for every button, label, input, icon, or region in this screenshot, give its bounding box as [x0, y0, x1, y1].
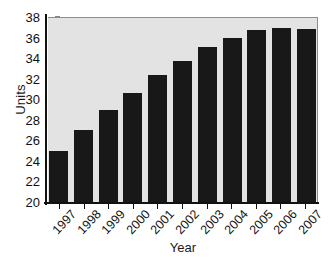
bar — [272, 28, 291, 202]
bar — [223, 38, 242, 202]
bar — [123, 93, 142, 202]
y-axis-tick-labels: 20222426283032343638 — [14, 17, 40, 202]
x-axis-title: Year — [48, 240, 318, 255]
x-tick: 2004 — [220, 204, 244, 244]
bar — [173, 61, 192, 202]
bar — [198, 47, 217, 202]
x-tick-mark — [157, 204, 158, 209]
x-tick: 2003 — [196, 204, 220, 244]
x-axis-tick-labels: 1997199819992000200120022003200420052006… — [48, 204, 318, 244]
y-tick-label: 38 — [26, 11, 40, 24]
y-tick-label: 34 — [26, 52, 40, 65]
x-tick: 2006 — [269, 204, 293, 244]
x-tick-mark — [207, 204, 208, 209]
bar — [49, 151, 68, 202]
bar-chart: Units 20222426283032343638 1997199819992… — [0, 0, 332, 261]
y-tick-label: 22 — [26, 175, 40, 188]
x-tick-mark — [182, 204, 183, 209]
x-tick-mark — [108, 204, 109, 209]
x-tick-mark — [133, 204, 134, 209]
x-tick: 1999 — [97, 204, 121, 244]
bar — [247, 30, 266, 202]
y-tick-label: 20 — [26, 196, 40, 209]
x-tick-mark — [84, 204, 85, 209]
y-tick-label: 36 — [26, 31, 40, 44]
x-tick-label: 2007 — [289, 200, 331, 244]
x-tick: 1998 — [73, 204, 97, 244]
x-tick: 2000 — [122, 204, 146, 244]
x-tick: 1997 — [48, 204, 72, 244]
bar — [74, 130, 93, 202]
x-tick-mark — [59, 204, 60, 209]
x-tick: 2002 — [171, 204, 195, 244]
y-axis-line — [45, 14, 47, 205]
x-tick-mark — [280, 204, 281, 209]
y-tick-label: 26 — [26, 134, 40, 147]
y-tick-label: 30 — [26, 93, 40, 106]
x-tick-mark — [231, 204, 232, 209]
x-tick-mark — [256, 204, 257, 209]
y-tick-label: 28 — [26, 113, 40, 126]
bar — [99, 110, 118, 203]
y-tick-label: 32 — [26, 72, 40, 85]
bar — [297, 29, 316, 202]
y-tick-label: 24 — [26, 154, 40, 167]
x-tick: 2001 — [146, 204, 170, 244]
x-tick: 2007 — [294, 204, 318, 244]
bar-series — [48, 18, 317, 202]
plot-area — [48, 17, 318, 202]
x-tick: 2005 — [245, 204, 269, 244]
x-tick-mark — [305, 204, 306, 209]
bar — [148, 75, 167, 202]
